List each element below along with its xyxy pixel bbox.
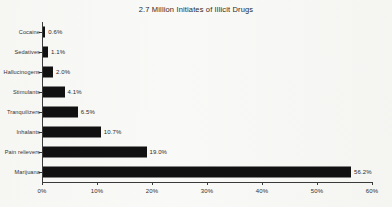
bar-value-label: 0.6% (48, 29, 62, 35)
bar-value-label: 4.1% (68, 89, 82, 95)
bar-row: Stimulants4.1% (42, 82, 372, 102)
category-label: Marijuana (15, 169, 40, 175)
x-axis-tick-label: 30% (201, 188, 213, 194)
x-axis-tick-label: 0% (38, 188, 47, 194)
bar-value-label: 6.5% (81, 109, 95, 115)
x-axis-tick (97, 182, 98, 185)
bar (42, 87, 65, 98)
x-axis-tick (317, 182, 318, 185)
bar-row: Tranquilizers6.5% (42, 102, 372, 122)
bar-row: Sedatives1.1% (42, 42, 372, 62)
x-axis-tick (207, 182, 208, 185)
bar-row: Inhalants10.7% (42, 122, 372, 142)
x-axis-tick-label: 40% (256, 188, 268, 194)
y-axis-line (42, 22, 43, 182)
bar (42, 127, 101, 138)
category-label: Hallucinogens (4, 69, 40, 75)
x-axis-tick (152, 182, 153, 185)
category-label: Stimulants (13, 89, 40, 95)
x-axis-tick-label: 50% (311, 188, 323, 194)
chart-title: 2.7 Million Initiates of Illicit Drugs (0, 5, 392, 14)
x-axis-tick-label: 20% (146, 188, 158, 194)
bar-row: Marijuana56.2% (42, 162, 372, 182)
bar-value-label: 2.0% (56, 69, 70, 75)
category-label: Tranquilizers (7, 109, 40, 115)
x-axis-tick (262, 182, 263, 185)
bar (42, 167, 351, 178)
bar-value-label: 1.1% (51, 49, 65, 55)
category-label: Inhalants (16, 129, 40, 135)
plot-area: Cocaine0.6%Sedatives1.1%Hallucinogens2.0… (42, 22, 372, 182)
bar-row: Cocaine0.6% (42, 22, 372, 42)
x-axis-tick-label: 10% (91, 188, 103, 194)
bar-value-label: 56.2% (354, 169, 372, 175)
bar (42, 147, 147, 158)
x-axis-tick (42, 182, 43, 185)
bar (42, 107, 78, 118)
bar (42, 67, 53, 78)
bar-value-label: 19.0% (150, 149, 168, 155)
bar-value-label: 10.7% (104, 129, 122, 135)
x-axis-tick-label: 60% (366, 188, 378, 194)
category-label: Cocaine (19, 29, 40, 35)
category-label: Sedatives (15, 49, 40, 55)
bar-chart-figure: 2.7 Million Initiates of Illicit Drugs C… (0, 0, 392, 207)
category-label: Pain relievers (5, 149, 40, 155)
x-axis-tick (372, 182, 373, 185)
bar-row: Hallucinogens2.0% (42, 62, 372, 82)
bar-row: Pain relievers19.0% (42, 142, 372, 162)
